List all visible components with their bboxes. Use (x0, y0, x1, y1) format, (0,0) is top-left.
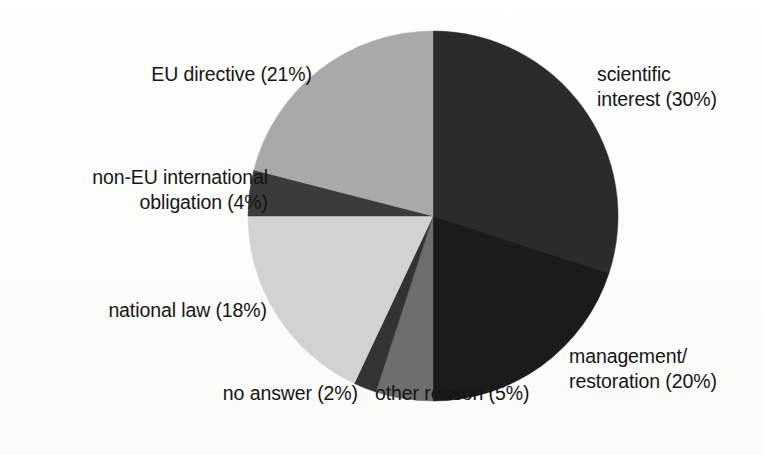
pie-label-eu-directive: EU directive (21%) (98, 62, 312, 87)
pie-label-scientific-interest: scientific interest (30%) (597, 62, 757, 112)
pie-chart-figure: scientific interest (30%) management/ re… (0, 0, 764, 455)
pie-label-management-restoration: management/ restoration (20%) (569, 344, 764, 394)
pie-label-non-eu-international-obligation: non-EU international obligation (4%) (24, 165, 268, 215)
pie-label-no-answer: no answer (2%) (188, 381, 358, 406)
pie-label-other-reason: other reason (5%) (375, 381, 585, 406)
pie-label-national-law: national law (18%) (62, 298, 267, 323)
